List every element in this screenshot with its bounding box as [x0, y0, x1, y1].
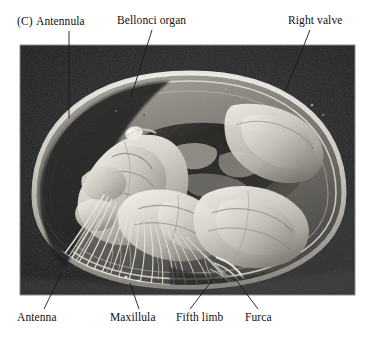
- label-bellonci-organ: Bellonci organ: [117, 14, 186, 27]
- label-maxillula: Maxillula: [110, 311, 156, 324]
- film-grain-overlay: [20, 45, 355, 295]
- micrograph-canvas: [20, 45, 355, 295]
- sem-micrograph-photo: [20, 45, 355, 295]
- label-furca: Furca: [245, 311, 272, 324]
- label-antenna: Antenna: [17, 311, 57, 324]
- label-right-valve: Right valve: [288, 14, 342, 27]
- figure-panel-c: (C) Antennula Bellonci organ Right valve…: [0, 0, 371, 339]
- panel-letter: (C): [17, 15, 33, 28]
- label-antennula: Antennula: [36, 15, 85, 28]
- label-fifth-limb: Fifth limb: [176, 311, 223, 324]
